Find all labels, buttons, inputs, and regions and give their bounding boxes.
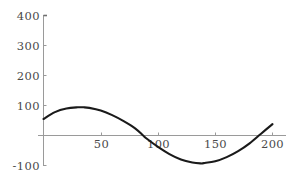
- x-tick-label-200: 200: [261, 137, 284, 151]
- y-axis-ticks: [44, 16, 48, 166]
- y-tick-label-300: 300: [17, 39, 40, 53]
- x-tick-label-50: 50: [94, 137, 109, 151]
- y-tick-label-400: 400: [17, 9, 40, 23]
- plot-canvas: 400 300 200 100 -100 50 100 150 200: [0, 0, 297, 181]
- y-tick-label-200: 200: [17, 69, 40, 83]
- chart-svg: 400 300 200 100 -100 50 100 150 200: [0, 0, 297, 181]
- x-tick-label-150: 150: [204, 137, 227, 151]
- y-tick-label-minus-100: -100: [13, 159, 40, 173]
- y-tick-label-100: 100: [17, 99, 40, 113]
- y-axis-tick-labels: 400 300 200 100 -100: [13, 9, 40, 173]
